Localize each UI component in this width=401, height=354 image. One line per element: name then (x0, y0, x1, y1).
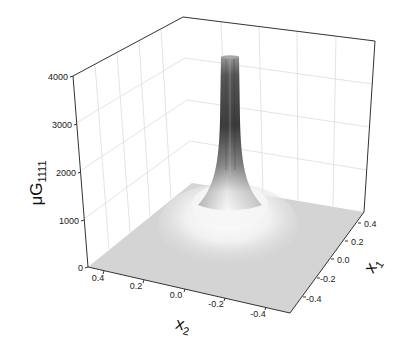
x2-tick-0.2: 0.2 (130, 281, 143, 291)
z-tick-2000: 2000 (56, 168, 76, 178)
x1-tick-0.0: 0.0 (337, 255, 350, 265)
x2-tick-neg0.2: -0.2 (208, 299, 224, 309)
z-label-sub: 1111 (36, 160, 48, 182)
z-tick-1000: 1000 (59, 216, 79, 226)
x2-label-sub: 2 (182, 324, 190, 337)
x1-tick-neg0.4: -0.4 (306, 294, 322, 304)
z-label-main: μG (27, 183, 46, 206)
svg-text:x1: x1 (360, 254, 386, 278)
z-tick-4000: 4000 (48, 72, 68, 82)
svg-text:μG1111: μG1111 (27, 160, 48, 205)
svg-text:x2: x2 (174, 314, 193, 338)
x1-axis-label: x1 (360, 254, 386, 278)
x1-tick-neg0.2: -0.2 (320, 274, 336, 284)
x2-tick-neg0.4: -0.4 (250, 309, 266, 319)
surface-plot: 4000 3000 2000 1000 0 0.4 0.2 0.0 -0.2 -… (0, 0, 401, 354)
x1-tick-0.4: 0.4 (364, 219, 377, 229)
x1-tick-0.2: 0.2 (351, 237, 364, 247)
x2-tick-0.4: 0.4 (92, 273, 105, 283)
z-axis-label: μG1111 (27, 160, 48, 205)
x2-tick-0.0: 0.0 (170, 290, 183, 300)
x2-axis-label: x2 (174, 314, 193, 338)
z-tick-3000: 3000 (52, 120, 72, 130)
z-tick-0: 0 (78, 263, 83, 273)
